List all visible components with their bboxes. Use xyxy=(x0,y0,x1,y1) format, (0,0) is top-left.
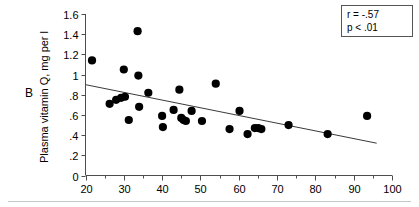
x-tick-label: 20 xyxy=(80,183,92,195)
x-tick-label: 70 xyxy=(271,183,283,195)
pvalue-text: p < .01 xyxy=(347,22,378,33)
x-axis-ticks xyxy=(87,176,393,181)
y-axis-title: Plasma vitamin Q, mg per l xyxy=(38,31,50,163)
x-tick-label: 50 xyxy=(194,183,206,195)
data-point xyxy=(88,56,96,64)
x-axis-tick-labels: 2030405060708090100 xyxy=(80,183,401,195)
x-tick-label: 30 xyxy=(118,183,130,195)
statistics-box: r = -.57 p < .01 xyxy=(342,6,413,37)
x-tick-label: 100 xyxy=(383,183,401,195)
data-point xyxy=(212,80,220,88)
data-point xyxy=(235,107,243,115)
data-point xyxy=(198,117,206,125)
data-point xyxy=(324,130,332,138)
data-point xyxy=(175,86,183,94)
data-points xyxy=(88,27,371,138)
data-point xyxy=(363,112,371,120)
y-tick-label: .8 xyxy=(69,90,78,102)
data-point xyxy=(120,65,128,73)
data-point xyxy=(125,116,133,124)
data-point xyxy=(135,103,143,111)
data-point xyxy=(284,121,292,129)
data-point xyxy=(188,107,196,115)
y-tick-label: .2 xyxy=(69,150,78,162)
data-point xyxy=(134,71,142,79)
scatter-plot: 0.2.4.6.811.21.41.6 2030405060708090100 … xyxy=(0,0,419,207)
data-point xyxy=(144,89,152,97)
panel-letter: B xyxy=(25,86,33,100)
x-tick-label: 60 xyxy=(233,183,245,195)
data-point xyxy=(159,123,167,131)
x-tick-label: 90 xyxy=(348,183,360,195)
y-axis-tick-labels: 0.2.4.6.811.21.41.6 xyxy=(63,9,78,183)
y-tick-label: 1.4 xyxy=(63,29,78,41)
y-tick-label: 1.2 xyxy=(63,49,78,61)
y-tick-label: .6 xyxy=(69,110,78,122)
data-point xyxy=(134,27,142,35)
data-point xyxy=(243,130,251,138)
x-tick-label: 40 xyxy=(156,183,168,195)
axes xyxy=(86,14,393,176)
data-point xyxy=(121,93,129,101)
y-axis-ticks xyxy=(82,15,86,177)
figure-panel-b: 0.2.4.6.811.21.41.6 2030405060708090100 … xyxy=(0,0,419,207)
data-point xyxy=(182,117,190,125)
y-tick-label: 0 xyxy=(72,171,78,183)
regression-line xyxy=(86,85,377,144)
data-point xyxy=(158,112,166,120)
data-point xyxy=(225,125,233,133)
y-tick-label: 1 xyxy=(72,70,78,82)
data-point xyxy=(257,125,265,133)
data-point xyxy=(170,106,178,114)
y-tick-label: 1.6 xyxy=(63,9,78,21)
correlation-value: r = -.57 xyxy=(347,9,379,20)
x-tick-label: 80 xyxy=(309,183,321,195)
y-tick-label: .4 xyxy=(69,130,78,142)
